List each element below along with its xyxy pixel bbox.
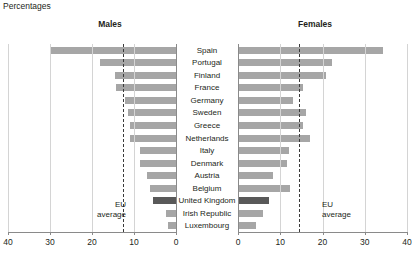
bar-female-irish-republic (238, 210, 263, 217)
category-label-portugal: Portugal (176, 58, 238, 67)
category-label-spain: Spain (176, 46, 238, 55)
bar-male-netherlands (130, 135, 176, 142)
tick-label-females-40: 40 (402, 237, 411, 248)
gridline-males-40 (8, 44, 9, 232)
eu-average-annotation-males: EU average (92, 200, 126, 219)
category-label-netherlands: Netherlands (176, 134, 238, 143)
bar-male-finland (115, 72, 176, 79)
bar-female-united-kingdom (238, 197, 269, 204)
tick-males-30 (50, 232, 51, 235)
bar-female-austria (238, 172, 273, 179)
eu-average-line1-females: EU (322, 200, 366, 210)
tick-females-20 (323, 232, 324, 235)
tick-label-males-10: 10 (129, 237, 138, 248)
bar-male-belgium (150, 185, 176, 192)
bar-female-germany (238, 97, 293, 104)
bar-female-spain (238, 47, 383, 54)
bar-male-germany (125, 97, 176, 104)
tick-label-males-40: 40 (3, 237, 12, 248)
tick-label-males-30: 30 (45, 237, 54, 248)
bar-male-greece (130, 122, 176, 129)
tick-label-females-10: 10 (276, 237, 285, 248)
tick-males-0 (176, 232, 177, 235)
bar-female-belgium (238, 185, 290, 192)
bar-male-denmark (140, 160, 176, 167)
axis-line-females (238, 44, 239, 232)
bar-female-sweden (238, 109, 306, 116)
tick-females-0 (238, 232, 239, 235)
eu-average-line1-males: EU (92, 200, 126, 210)
chart-container: Percentages Males Females SpainPortugalF… (0, 0, 415, 256)
bar-male-portugal (100, 59, 176, 66)
eu-average-line-females (299, 44, 300, 232)
category-label-sweden: Sweden (176, 108, 238, 117)
category-label-irish-republic: Irish Republic (176, 209, 238, 218)
tick-males-20 (92, 232, 93, 235)
bar-male-italy (140, 147, 176, 154)
bar-female-portugal (238, 59, 332, 66)
bar-female-greece (238, 122, 303, 129)
bar-male-luxembourg (168, 222, 176, 229)
panel-title-males: Males (60, 19, 160, 29)
bar-male-spain (50, 47, 176, 54)
category-label-austria: Austria (176, 171, 238, 180)
category-label-germany: Germany (176, 96, 238, 105)
category-label-united-kingdom: United Kingdom (176, 196, 238, 205)
category-label-denmark: Denmark (176, 159, 238, 168)
bar-male-irish-republic (166, 210, 176, 217)
bar-female-france (238, 84, 303, 91)
panel-title-females: Females (265, 19, 365, 29)
category-label-luxembourg: Luxembourg (176, 221, 238, 230)
gridline-males-10 (134, 44, 135, 232)
category-label-greece: Greece (176, 121, 238, 130)
gridline-males-30 (50, 44, 51, 232)
category-label-finland: Finland (176, 71, 238, 80)
tick-males-10 (134, 232, 135, 235)
tick-label-males-0: 0 (174, 237, 179, 248)
gridline-females-10 (280, 44, 281, 232)
tick-females-40 (407, 232, 408, 235)
tick-females-10 (280, 232, 281, 235)
bar-female-luxembourg (238, 222, 256, 229)
bar-male-austria (147, 172, 176, 179)
units-label: Percentages (3, 1, 51, 12)
gridline-females-40 (407, 44, 408, 232)
category-axis-labels: SpainPortugalFinlandFranceGermanySwedenG… (176, 44, 238, 232)
tick-label-females-0: 0 (236, 237, 241, 248)
tick-label-females-30: 30 (360, 237, 369, 248)
category-label-france: France (176, 83, 238, 92)
eu-average-annotation-females: EU average (322, 200, 366, 219)
category-label-italy: Italy (176, 146, 238, 155)
bar-male-united-kingdom (153, 197, 176, 204)
tick-females-30 (365, 232, 366, 235)
tick-label-females-20: 20 (318, 237, 327, 248)
tick-label-males-20: 20 (87, 237, 96, 248)
category-label-belgium: Belgium (176, 184, 238, 193)
tick-males-40 (8, 232, 9, 235)
eu-average-line2-males: average (92, 210, 126, 220)
bar-female-finland (238, 72, 326, 79)
eu-average-line2-females: average (322, 210, 366, 220)
bar-male-france (116, 84, 176, 91)
